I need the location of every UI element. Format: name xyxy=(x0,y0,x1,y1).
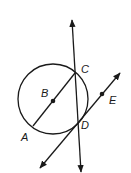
label-E: E xyxy=(109,94,117,106)
label-A: A xyxy=(20,131,28,143)
point-E-dot xyxy=(100,92,105,97)
label-B: B xyxy=(41,87,48,99)
geometry-diagram: A B C D E xyxy=(0,0,131,173)
line-CD xyxy=(72,20,81,172)
point-B-dot xyxy=(51,99,56,104)
label-C: C xyxy=(81,63,89,75)
label-D: D xyxy=(81,119,89,131)
